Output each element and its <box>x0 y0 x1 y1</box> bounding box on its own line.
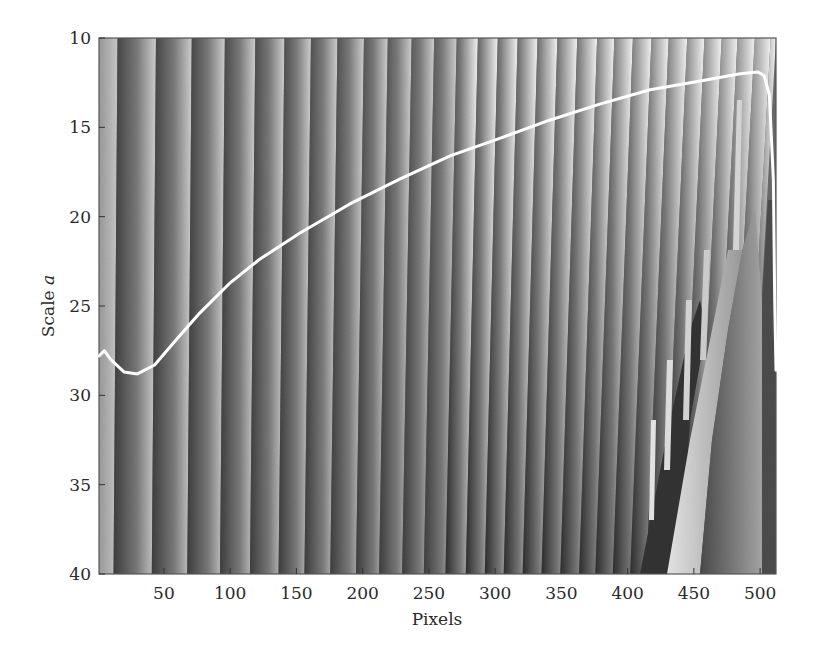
x-tick-label: 100 <box>214 583 246 603</box>
x-tick-label: 150 <box>280 583 312 603</box>
phase-stripe <box>114 38 156 574</box>
x-tick-label: 300 <box>479 583 511 603</box>
y-tick-label: 40 <box>69 564 91 584</box>
x-tick-label: 50 <box>153 583 175 603</box>
y-axis-label-prefix: Scale <box>38 285 58 337</box>
x-axis-label: Pixels <box>412 609 463 629</box>
x-tick-label: 400 <box>611 583 643 603</box>
phase-stripe <box>220 38 255 574</box>
x-tick-label: 250 <box>413 583 445 603</box>
y-tick-label: 10 <box>69 28 91 48</box>
chart-figure: 50100150200250300350400450500 1015202530… <box>0 0 816 664</box>
y-axis-label-variable: a <box>38 275 58 285</box>
y-tick-label: 20 <box>69 207 91 227</box>
y-tick-label: 30 <box>69 385 91 405</box>
x-tick-label: 200 <box>346 583 378 603</box>
x-tick-label: 500 <box>744 583 776 603</box>
y-axis-label: Scale a <box>38 275 58 337</box>
y-tick-label: 35 <box>69 475 91 495</box>
x-tick-label: 350 <box>545 583 577 603</box>
phase-heatmap <box>99 38 776 574</box>
y-tick-label: 15 <box>69 117 91 137</box>
chart-canvas: 50100150200250300350400450500 1015202530… <box>0 0 816 664</box>
phase-stripe <box>250 38 285 574</box>
x-tick-label: 450 <box>678 583 710 603</box>
phase-stripe <box>152 38 192 574</box>
y-tick-label: 25 <box>69 296 91 316</box>
